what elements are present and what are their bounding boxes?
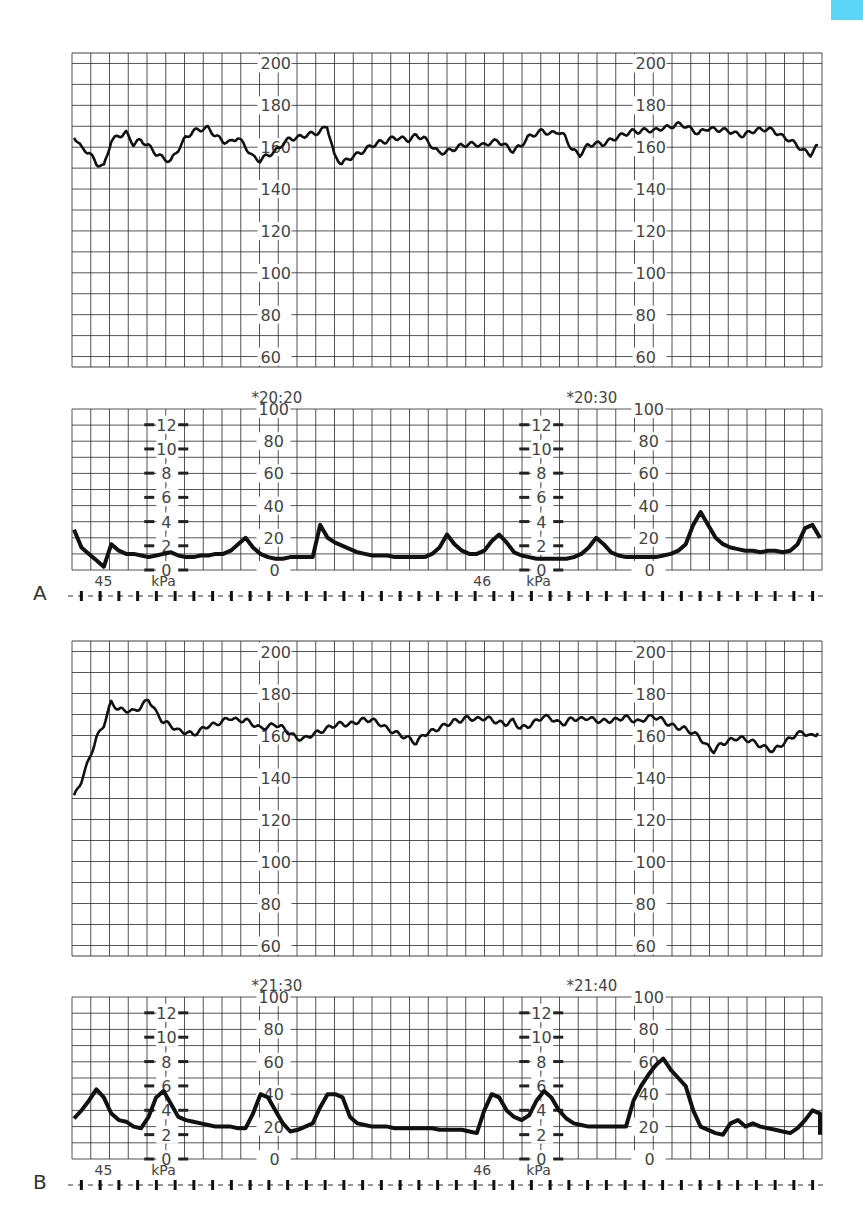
time-tick-mark [717,1180,720,1190]
time-tick-mark [80,591,83,601]
page-marker: 46 [473,573,491,589]
time-tick-mark [305,1180,308,1190]
fhr-axis-label: 120 [261,811,292,830]
time-marker: *21:40 [567,977,618,995]
time-tick-mark [474,591,477,601]
time-tick-mark [492,1180,495,1190]
time-tick-mark [267,591,270,601]
uc-chart: 100806040200100806040200121086420kPa1210… [68,977,828,1190]
time-tick-mark [511,1180,514,1190]
uc-mmhg-label: 100 [634,400,665,419]
time-tick-mark [117,1180,120,1190]
kpa-label: 10 [531,1028,551,1047]
time-tick-mark [792,591,795,601]
kpa-label: 8 [161,1053,171,1072]
time-tick-mark [99,1180,102,1190]
time-tick-mark [286,1180,289,1190]
time-tick-mark [736,1180,739,1190]
fhr-axis-label: 60 [261,348,281,367]
ctg-chart-svg: 2001801601401201008060200180160140120100… [0,0,863,1215]
time-tick-mark [155,1180,158,1190]
time-tick-mark [399,1180,402,1190]
time-tick-mark [586,1180,589,1190]
time-tick-mark [605,1180,608,1190]
panel-label: A [33,581,47,605]
time-tick-mark [755,1180,758,1190]
time-tick-mark [267,1180,270,1190]
time-tick-mark [811,1180,814,1190]
time-tick-mark [455,591,458,601]
time-tick-mark [642,591,645,601]
fhr-axis-label: 120 [261,222,292,241]
uc-mmhg-label: 0 [270,561,280,580]
fhr-axis-label: 200 [261,643,292,662]
time-tick-mark [436,591,439,601]
fhr-axis-label: 160 [636,138,667,157]
time-tick-mark [230,1180,233,1190]
fhr-axis-label: 180 [636,685,667,704]
fhr-axis-label: 60 [636,348,656,367]
time-tick-mark [136,591,139,601]
time-tick-mark [342,1180,345,1190]
fhr-axis-label: 200 [261,54,292,73]
kpa-label: 10 [531,440,551,459]
time-tick-mark [549,1180,552,1190]
time-tick-mark [192,1180,195,1190]
time-tick-mark [117,591,120,601]
uc-mmhg-label: 0 [645,1150,655,1169]
uc-mmhg-label: 80 [639,1020,659,1039]
fhr-axis-label: 80 [261,306,281,325]
time-tick-mark [399,591,402,601]
fhr-axis-label: 100 [636,264,667,283]
kpa-label: 10 [156,1028,176,1047]
time-tick-mark [717,591,720,601]
fhr-axis-label: 200 [636,643,667,662]
time-marker: *20:30 [567,389,618,407]
time-tick-mark [305,591,308,601]
time-tick-mark [661,1180,664,1190]
time-tick-mark [192,591,195,601]
kpa-label: 4 [536,513,546,532]
time-tick-mark [230,591,233,601]
time-tick-mark [380,1180,383,1190]
time-marker: *20:20 [252,389,303,407]
time-tick-mark [755,591,758,601]
time-tick-mark [380,591,383,601]
time-tick-mark [492,591,495,601]
kpa-label: 8 [161,464,171,483]
uc-mmhg-label: 20 [639,1118,659,1137]
time-marker: *21:30 [252,977,303,995]
time-tick-mark [680,591,683,601]
kpa-unit-label: kPa [526,1162,551,1178]
page-marker: 46 [473,1162,491,1178]
time-tick-mark [774,1180,777,1190]
fhr-axis-label: 160 [636,727,667,746]
uc-mmhg-label: 60 [264,464,284,483]
kpa-unit-label: kPa [151,573,176,589]
time-tick-mark [642,1180,645,1190]
fhr-axis-label: 80 [636,895,656,914]
fhr-axis-label: 100 [261,853,292,872]
kpa-label: 12 [531,1004,551,1023]
time-tick-mark [361,591,364,601]
time-tick-mark [792,1180,795,1190]
kpa-label: 12 [156,416,176,435]
time-tick-mark [417,1180,420,1190]
uc-mmhg-label: 0 [270,1150,280,1169]
kpa-label: 6 [536,488,546,507]
kpa-unit-label: kPa [526,573,551,589]
time-tick-mark [511,591,514,601]
uc-mmhg-label: 60 [639,1053,659,1072]
time-tick-mark [455,1180,458,1190]
fhr-axis-label: 180 [636,96,667,115]
fhr-axis-label: 80 [636,306,656,325]
uc-mmhg-label: 100 [634,988,665,1007]
ctg-figure: 2001801601401201008060200180160140120100… [0,0,863,1215]
time-tick-mark [211,591,214,601]
kpa-label: 2 [536,537,546,556]
time-tick-mark [530,1180,533,1190]
page-marker: 45 [95,573,113,589]
fhr-axis-label: 140 [261,180,292,199]
fhr-axis-label: 140 [636,180,667,199]
kpa-label: 8 [536,464,546,483]
